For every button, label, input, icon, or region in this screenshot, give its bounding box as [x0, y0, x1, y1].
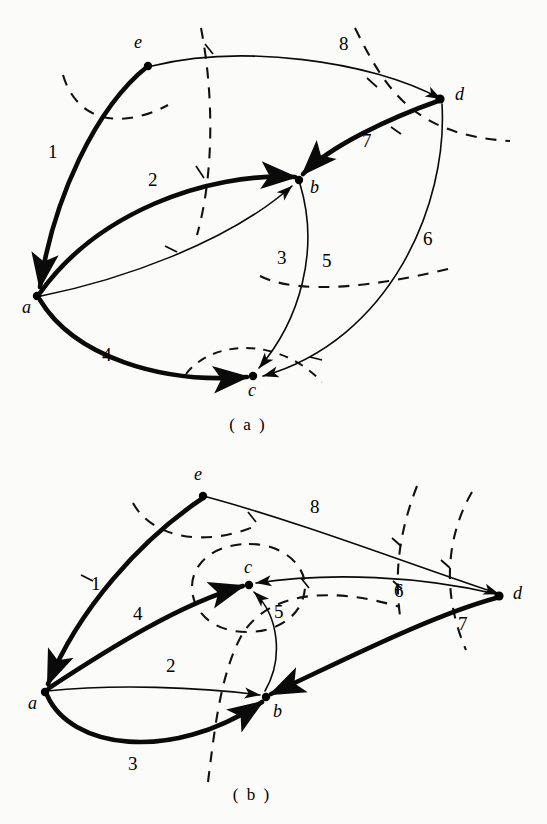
node-label-a-d: d [455, 84, 465, 104]
node-b-a[interactable] [41, 688, 49, 696]
node-a-b[interactable] [295, 176, 303, 184]
edge-a-8 [152, 56, 441, 99]
edge-label-a-3: 3 [277, 247, 287, 268]
node-label-a-e: e [134, 32, 142, 52]
cut-tick-a-6 [310, 357, 322, 360]
cut-tick-b-1 [248, 512, 256, 522]
panel-b-caption: ( b ) [233, 785, 271, 804]
cut-tick-a-2 [205, 44, 213, 54]
edge-a-2 [40, 177, 295, 293]
graph-drawing-svg: a b c d e 1 2 3 4 5 6 7 8 ( a ) [0, 0, 547, 824]
edge-label-b-5: 5 [274, 601, 284, 622]
edge-a-4 [40, 300, 247, 378]
edge-label-b-8: 8 [310, 496, 320, 517]
edge-b-8 [207, 497, 499, 594]
node-label-b-d: d [513, 583, 523, 603]
edge-label-a-8: 8 [339, 33, 349, 54]
panel-a: a b c d e 1 2 3 4 5 6 7 8 ( a ) [22, 28, 510, 434]
panel-b: a b c d e 1 2 3 4 5 6 7 8 ( b ) [28, 464, 523, 804]
node-a-d[interactable] [435, 94, 444, 103]
cut-curve-b-1 [133, 503, 258, 537]
edge-b-2 [47, 687, 260, 695]
cut-tick-b-3 [392, 538, 401, 546]
node-a-a[interactable] [33, 292, 41, 300]
node-b-e[interactable] [199, 492, 207, 500]
edge-b-4 [49, 586, 243, 688]
edge-label-b-1: 1 [91, 573, 101, 594]
edge-label-b-4: 4 [133, 603, 143, 624]
node-label-a-b: b [310, 177, 319, 197]
cut-curve-a-2 [197, 28, 210, 235]
edge-label-b-3: 3 [128, 753, 138, 774]
cut-curve-b-3 [208, 595, 400, 782]
figure-container: a b c d e 1 2 3 4 5 6 7 8 ( a ) [0, 0, 547, 824]
node-b-b[interactable] [262, 693, 270, 701]
node-a-c[interactable] [249, 372, 257, 380]
node-label-b-e: e [194, 464, 202, 484]
edge-label-a-7: 7 [362, 130, 372, 151]
edge-b-3 [47, 695, 262, 742]
edge-label-a-5: 5 [322, 250, 332, 271]
node-b-d[interactable] [494, 591, 503, 600]
edge-a-1 [40, 66, 148, 287]
cut-tick-a-4 [367, 78, 377, 87]
node-label-a-a: a [22, 297, 31, 317]
node-label-b-c: c [244, 557, 252, 577]
edge-label-a-1: 1 [48, 141, 58, 162]
cut-tick-a-5 [391, 127, 401, 134]
edge-label-a-6: 6 [423, 228, 433, 249]
node-label-a-c: c [248, 380, 256, 400]
cut-curve-a-3 [260, 268, 452, 287]
node-b-c[interactable] [245, 581, 253, 589]
cut-tick-a-1 [196, 166, 204, 178]
node-label-b-a: a [28, 693, 37, 713]
edge-label-b-6: 6 [394, 580, 404, 601]
panel-a-caption: ( a ) [229, 415, 266, 434]
edge-a-5 [259, 184, 308, 368]
edge-label-a-4: 4 [102, 344, 112, 365]
edge-label-a-2: 2 [148, 169, 158, 190]
node-label-b-b: b [273, 701, 282, 721]
node-a-e[interactable] [144, 62, 152, 70]
edge-b-6 [256, 577, 496, 594]
cut-tick-a-3 [165, 246, 177, 252]
edge-label-b-2: 2 [166, 655, 176, 676]
edge-a-3 [41, 186, 292, 296]
edge-label-b-7: 7 [458, 613, 468, 634]
edge-a-6 [263, 104, 442, 376]
cut-tick-b-5 [441, 560, 450, 568]
edge-b-1 [48, 498, 203, 684]
